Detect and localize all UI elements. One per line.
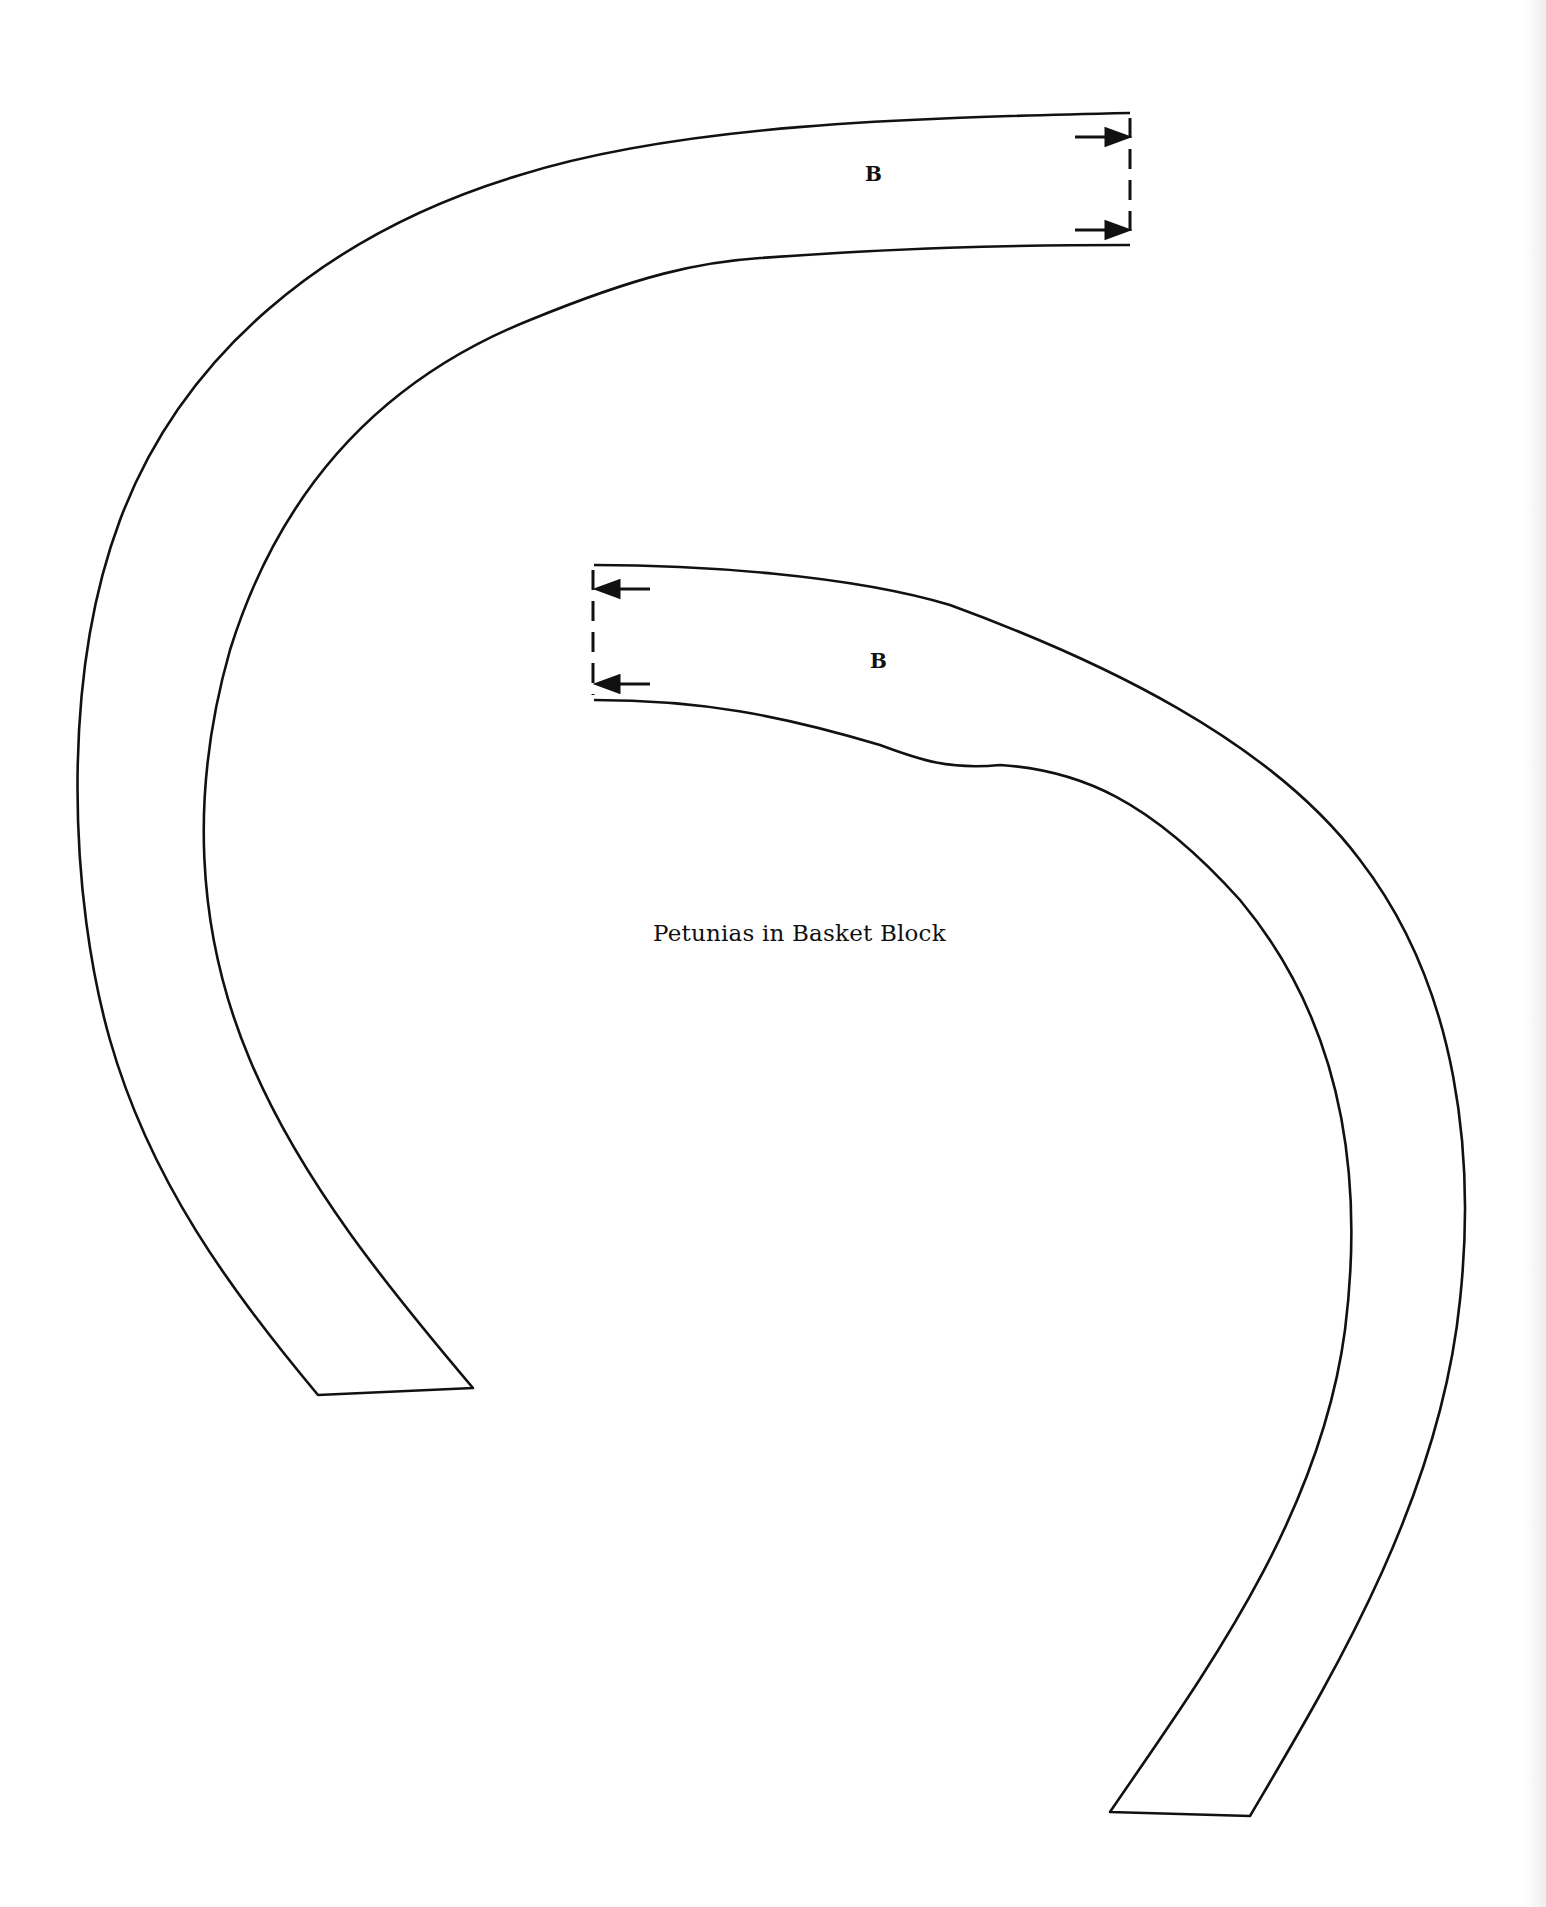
quilt-pattern-drawing <box>0 0 1546 1907</box>
grain-markers-upper <box>1075 118 1130 242</box>
grain-markers-lower <box>593 570 650 695</box>
pattern-caption: Petunias in Basket Block <box>653 920 946 946</box>
piece-b-lower-outline <box>594 565 1465 1816</box>
piece-b-upper-outline <box>78 113 1131 1395</box>
piece-label-upper: B <box>865 162 882 186</box>
piece-label-lower: B <box>870 649 887 673</box>
